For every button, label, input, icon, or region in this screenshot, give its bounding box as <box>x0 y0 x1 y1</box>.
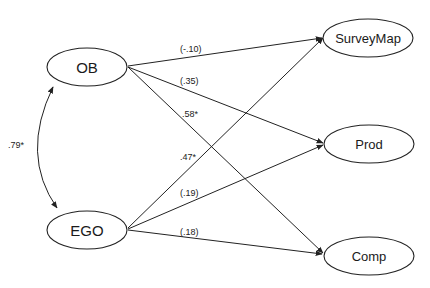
coefficient-label-ob-prod: (.35) <box>180 76 199 86</box>
path-arrow-ego-comp <box>128 230 322 254</box>
node-label: Comp <box>352 249 387 264</box>
node-prod: Prod <box>324 125 414 163</box>
coefficient-label-ob-comp: .58* <box>182 109 199 119</box>
path-arrow-ego-prod <box>128 145 323 229</box>
nodes: OBEGOSurveyMapProdComp <box>47 19 414 275</box>
node-label: EGO <box>70 222 103 239</box>
path-diagram: OBEGOSurveyMapProdComp .79*(-.10)(.35).5… <box>0 0 430 288</box>
node-label: OB <box>76 59 98 76</box>
node-ob: OB <box>47 48 127 86</box>
coefficient-label-ob-surveymap: (-.10) <box>180 44 202 54</box>
coefficient-label-ego-comp: (.18) <box>180 227 199 237</box>
node-comp: Comp <box>324 237 414 275</box>
path-arrow-ob-prod <box>128 67 323 143</box>
path-arrow-ob-comp <box>128 67 323 253</box>
node-label: SurveyMap <box>335 31 401 46</box>
coefficient-label-ego-surveymap: .47* <box>180 152 197 162</box>
node-surveymap: SurveyMap <box>323 19 413 57</box>
coefficient-label-ego-prod: (.19) <box>180 188 199 198</box>
node-label: Prod <box>355 137 382 152</box>
path-arrow-ob-surveymap <box>128 38 322 66</box>
correlation-arrow-ob-ego <box>37 87 57 208</box>
correlation-label: .79* <box>8 140 25 150</box>
node-ego: EGO <box>47 211 127 249</box>
path-arrow-ego-surveymap <box>128 38 323 228</box>
